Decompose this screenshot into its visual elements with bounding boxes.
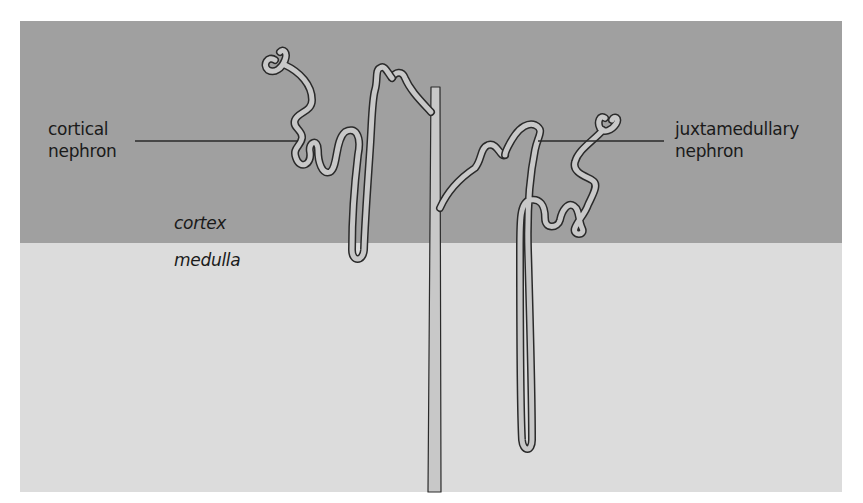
medulla-label: medulla	[174, 250, 240, 270]
juxtamedullary-nephron-label: juxtamedullary nephron	[675, 118, 799, 162]
cortical-nephron-label: cortical nephron	[48, 118, 117, 162]
nephron-diagram: cortical nephron juxtamedullary nephron …	[0, 0, 863, 503]
cortex-label: cortex	[174, 213, 226, 233]
